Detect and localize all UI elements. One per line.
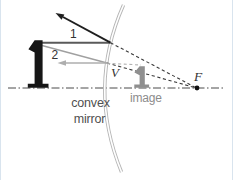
mirror-caption-line2: mirror bbox=[74, 112, 105, 126]
focal-point-label: F bbox=[193, 69, 203, 84]
convex-mirror-ray-diagram: 1 2 V F image convex mirror bbox=[0, 0, 234, 180]
ray1-extension-to-focus-dashed bbox=[111, 43, 197, 88]
focal-point-dot bbox=[195, 86, 200, 91]
diagram-canvas: 1 2 V F image convex mirror bbox=[0, 0, 234, 180]
ray2-extension-to-focus-dashed bbox=[107, 63, 197, 88]
vertex-label: V bbox=[111, 65, 121, 80]
object-arrow bbox=[28, 40, 49, 88]
ray2-reflected-arrowhead bbox=[58, 60, 67, 66]
mirror-caption-line1: convex bbox=[71, 96, 110, 110]
image-arrow bbox=[134, 66, 149, 87]
image-label: image bbox=[130, 91, 162, 105]
ray1-label: 1 bbox=[70, 27, 77, 41]
ray1-reflected-arrowhead bbox=[56, 13, 65, 20]
ray2-label: 2 bbox=[52, 48, 59, 62]
